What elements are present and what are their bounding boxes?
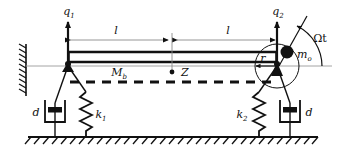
- label-radius: r: [260, 52, 266, 65]
- label-damper-left: d: [32, 106, 39, 119]
- figure-canvas: l l q1 q2 Mb Z: [0, 0, 342, 151]
- mechanical-schematic: l l q1 q2 Mb Z: [0, 0, 342, 151]
- label-damper-right: d: [305, 106, 312, 119]
- label-span-right: l: [226, 24, 230, 37]
- label-span-left: l: [114, 24, 118, 37]
- label-center-Z: Z: [180, 66, 189, 79]
- background: [0, 0, 342, 151]
- label-rotation-angle: Ωt: [313, 32, 327, 45]
